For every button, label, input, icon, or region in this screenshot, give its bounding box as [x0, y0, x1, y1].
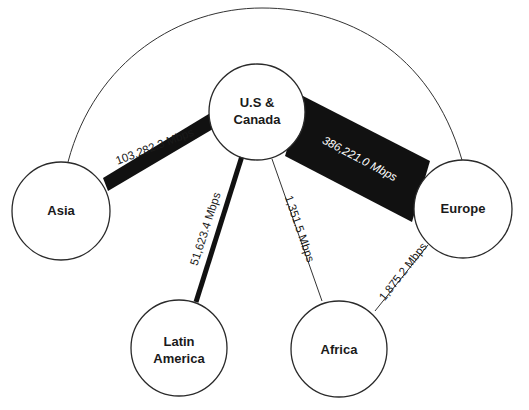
node-label: Asia	[47, 203, 75, 218]
link-label-europe-africa: 1,875.2 Mbps	[377, 240, 430, 302]
node-label: America	[153, 351, 205, 366]
node-latin-america: Latin America	[131, 300, 227, 396]
node-asia: Asia	[12, 162, 110, 260]
link-label-us-africa: 1,351.5 Mbps	[283, 194, 317, 264]
diagram-canvas: U.S & Canada Asia Europe Latin America A…	[0, 0, 529, 410]
node-label: Europe	[441, 201, 486, 216]
link-us-asia	[103, 112, 218, 191]
bandwidth-diagram: U.S & Canada Asia Europe Latin America A…	[0, 0, 529, 410]
node-label: U.S &	[240, 95, 275, 110]
node-africa: Africa	[291, 301, 387, 397]
node-europe: Europe	[414, 160, 512, 258]
node-us-canada: U.S & Canada	[209, 64, 305, 160]
node-label: Canada	[234, 112, 282, 127]
node-label: Africa	[321, 342, 359, 357]
node-label: Latin	[163, 334, 194, 349]
